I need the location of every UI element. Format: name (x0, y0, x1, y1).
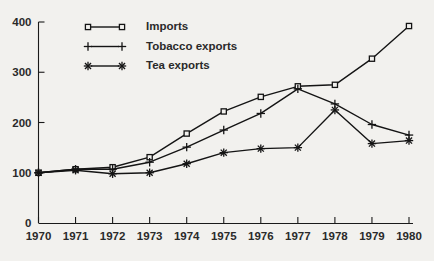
data-point (294, 143, 302, 151)
data-point (368, 120, 376, 128)
data-point (332, 82, 337, 87)
data-point (183, 143, 191, 151)
y-tick-group: 0100200300400 (12, 16, 44, 229)
data-point (257, 109, 265, 117)
legend-item-tobacco-exports: Tobacco exports (84, 40, 237, 52)
legend-marker (84, 62, 92, 70)
marker-square-icon (184, 131, 189, 136)
chart-canvas: 0100200300400 19701971197219731974197519… (0, 0, 434, 261)
marker-square-icon (221, 109, 226, 114)
legend-item-tea-exports: Tea exports (84, 59, 210, 71)
legend-label: Tobacco exports (146, 40, 237, 52)
data-point (405, 136, 413, 144)
y-tick-label: 300 (12, 66, 31, 78)
legend-marker (84, 42, 92, 50)
x-tick-label: 1980 (396, 230, 422, 242)
data-point (368, 139, 376, 147)
data-point (257, 144, 265, 152)
marker-square-icon (406, 23, 411, 28)
x-tick-label: 1973 (137, 230, 163, 242)
marker-square-icon (369, 56, 374, 61)
x-tick-label: 1975 (211, 230, 237, 242)
data-point (145, 169, 153, 177)
x-tick-label: 1971 (63, 230, 89, 242)
legend-item-imports: Imports (85, 20, 188, 32)
data-point (331, 106, 339, 114)
series-tobacco-exports (34, 85, 413, 177)
data-point (258, 94, 263, 99)
legend-label: Tea exports (146, 59, 210, 71)
y-tick-label: 200 (12, 117, 31, 129)
marker-square-icon (119, 24, 124, 29)
x-tick-label: 1974 (174, 230, 200, 242)
x-tick-label: 1970 (26, 230, 52, 242)
legend-label: Imports (146, 20, 188, 32)
data-point (34, 169, 42, 177)
data-point (184, 131, 189, 136)
x-tick-label: 1979 (359, 230, 385, 242)
marker-square-icon (85, 24, 90, 29)
marker-square-icon (332, 82, 337, 87)
x-tick-label: 1976 (248, 230, 274, 242)
data-point (108, 170, 116, 178)
chart-legend: ImportsTobacco exportsTea exports (84, 20, 237, 71)
legend-marker (118, 42, 126, 50)
data-point (369, 56, 374, 61)
legend-marker (118, 62, 126, 70)
x-axis-group: 1970197119721973197419751976197719781979… (26, 217, 422, 242)
data-point (221, 109, 226, 114)
data-point (406, 23, 411, 28)
marker-square-icon (258, 94, 263, 99)
legend-marker (85, 24, 90, 29)
data-point (220, 148, 228, 156)
x-tick-label: 1978 (322, 230, 348, 242)
data-point (71, 166, 79, 174)
y-tick-label: 400 (12, 16, 31, 28)
data-point (183, 160, 191, 168)
data-point (220, 126, 228, 134)
y-tick-label: 0 (25, 217, 31, 229)
legend-marker (119, 24, 124, 29)
x-tick-group: 1970197119721973197419751976197719781979… (26, 217, 422, 242)
x-tick-label: 1972 (100, 230, 126, 242)
series-polyline (39, 110, 410, 174)
line-chart: 0100200300400 19701971197219731974197519… (0, 0, 434, 261)
y-tick-label: 100 (12, 167, 31, 179)
x-tick-label: 1977 (285, 230, 311, 242)
y-axis-group: 0100200300400 (12, 16, 44, 229)
